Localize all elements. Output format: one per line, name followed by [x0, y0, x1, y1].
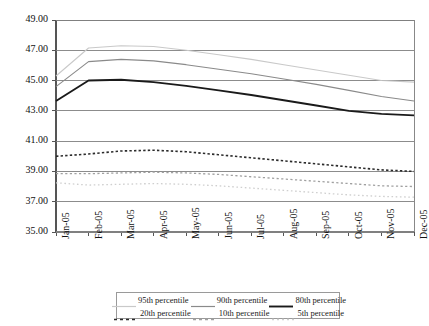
y-tick-label: 41.00 [4, 134, 48, 145]
legend-entry-1: 90th percentile [189, 295, 268, 305]
legend-row-upper: 95th percentile90th percentile80th perce… [117, 293, 339, 306]
x-tick-label: May-05 [190, 207, 201, 239]
y-tick-label: 45.00 [4, 74, 48, 85]
y-tick-label: 39.00 [4, 164, 48, 175]
legend-line-swatch [272, 309, 296, 316]
x-tick-label: Jun-05 [223, 212, 234, 239]
legend-row-lower: 20th percentile10th percentile5th percen… [117, 306, 339, 319]
legend-label: 5th percentile [298, 308, 345, 318]
series-line-2 [56, 80, 414, 116]
legend-label: 80th percentile [295, 295, 346, 305]
chart-legend: 95th percentile90th percentile80th perce… [116, 292, 340, 319]
legend-label: 90th percentile [217, 295, 268, 305]
legend-swatch-icon [114, 316, 138, 323]
legend-line-swatch [112, 296, 136, 303]
legend-entry-0: 95th percentile [110, 295, 189, 305]
legend-swatch-icon [193, 316, 217, 323]
data-series-group [56, 46, 414, 197]
legend-entry-3: 20th percentile [112, 308, 191, 318]
y-tick-label: 47.00 [4, 43, 48, 54]
legend-swatch-icon [272, 316, 296, 323]
legend-label: 10th percentile [219, 308, 270, 318]
legend-line-swatch [191, 296, 215, 303]
legend-label: 20th percentile [140, 308, 191, 318]
x-tick-label: Apr-05 [158, 210, 169, 239]
x-tick-label: Sep-05 [320, 211, 331, 239]
legend-line-swatch [269, 296, 293, 303]
legend-label: 95th percentile [138, 295, 189, 305]
legend-line-swatch [193, 309, 217, 316]
horizontal-gridlines [56, 20, 414, 232]
x-tick-label: Dec-05 [418, 210, 429, 239]
legend-entry-4: 10th percentile [191, 308, 270, 318]
y-tick-label: 37.00 [4, 195, 48, 206]
series-line-0 [56, 46, 414, 82]
legend-line-swatch [114, 309, 138, 316]
x-tick-label: Feb-05 [93, 211, 104, 239]
x-tick-label: Mar-05 [125, 209, 136, 239]
x-tick-label: Jul-05 [255, 214, 266, 239]
series-line-3 [56, 150, 414, 171]
y-tick-label: 35.00 [4, 225, 48, 236]
plot-frame [52, 20, 414, 236]
series-line-4 [56, 172, 414, 186]
legend-entry-2: 80th percentile [267, 295, 346, 305]
x-tick-label: Jan-05 [60, 212, 71, 239]
x-tick-label: Aug-05 [288, 208, 299, 239]
y-tick-label: 49.00 [4, 13, 48, 24]
legend-entry-5: 5th percentile [270, 308, 345, 318]
y-tick-label: 43.00 [4, 104, 48, 115]
x-tick-label: Oct-05 [353, 211, 364, 239]
x-tick-label: Nov-05 [385, 208, 396, 239]
